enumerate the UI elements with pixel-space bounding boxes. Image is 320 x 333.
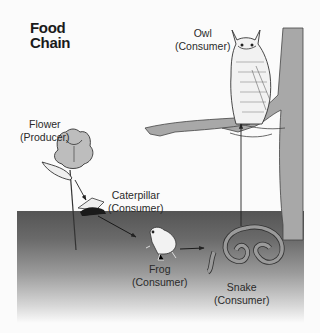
snake-role: (Consumer) [214,294,269,307]
owl-icon [231,30,271,124]
label-caterpillar: Caterpillar (Consumer) [108,189,163,215]
arrow-flower-to-caterpillar [75,180,86,200]
flower-icon [42,129,93,250]
caterpillar-icon [78,198,106,216]
tree-icon [145,28,303,240]
owl-role: (Consumer) [175,40,230,53]
label-frog: Frog (Consumer) [132,263,187,289]
label-owl: Owl (Consumer) [175,27,230,53]
arrow-frog-to-snake [180,248,204,249]
frog-role: (Consumer) [132,276,187,289]
arrow-caterpillar-to-frog [98,216,136,237]
snake-name: Snake [214,281,269,294]
caterpillar-role: (Consumer) [108,202,163,215]
label-flower: Flower (Producer) [20,118,70,144]
flower-name: Flower [20,118,70,131]
frog-icon [146,227,176,260]
label-snake: Snake (Consumer) [214,281,269,307]
caterpillar-name: Caterpillar [108,189,163,202]
flower-role: (Producer) [20,131,70,144]
frog-name: Frog [132,263,187,276]
snake-icon [208,227,282,272]
owl-name: Owl [175,27,230,40]
